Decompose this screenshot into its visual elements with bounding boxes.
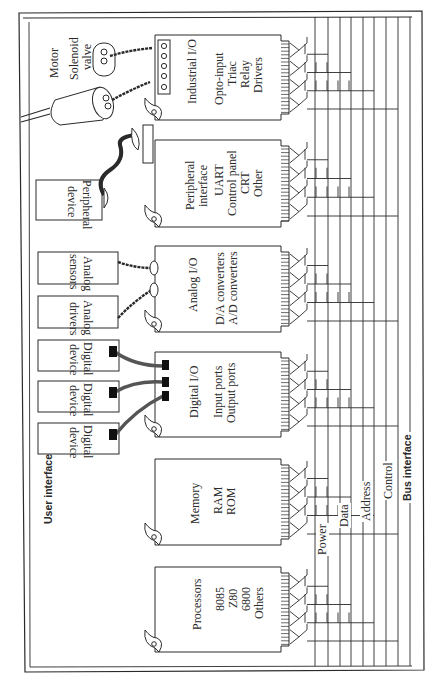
analog-sensors-label-1: Analog — [81, 256, 94, 291]
digital-device-2-label-1: Digital — [81, 383, 94, 416]
motor-icon — [21, 85, 117, 125]
card-processors-title: Processors — [191, 579, 204, 630]
bus-data-label: Data — [338, 503, 351, 528]
motor-cable — [112, 82, 150, 100]
card-industrial-io-line-4: Drivers — [252, 57, 265, 93]
digital-device-1-label-2: device — [67, 344, 80, 375]
digital-device-3-label-2: device — [67, 427, 80, 458]
card-memory-title: Memory — [189, 483, 202, 524]
card-peripheral-line-4: Other — [252, 170, 265, 197]
bus-system-diagram: Motor Solenoid valve Peripheral device A… — [0, 0, 443, 684]
digital-device-1-label-1: Digital — [81, 342, 94, 375]
bus-control-label: Control — [382, 461, 395, 500]
connector-fingers — [143, 125, 153, 163]
card-processors-line-4: Others — [253, 587, 266, 619]
analog-sensors-label-2: sensors — [67, 254, 80, 289]
bus-address-label: Address — [360, 481, 373, 522]
peripheral-cable — [101, 135, 135, 195]
analog-drivers-label-2: drivers — [67, 302, 80, 335]
card-memory-line-2: ROM — [225, 488, 238, 515]
card-digital-io-line-2: Output ports — [225, 363, 238, 423]
motor-label: Motor — [48, 48, 61, 78]
digital-device-3-label-1: Digital — [81, 425, 94, 458]
digital-device-2-label-2: device — [67, 385, 80, 416]
solenoid-valve-icon — [93, 43, 115, 76]
solenoid-label-2: valve — [81, 44, 94, 70]
peripheral-device-label-2: device — [65, 186, 78, 217]
user-interface-label: User interface — [42, 454, 55, 524]
peripheral-device-label-1: Peripheral — [80, 180, 93, 229]
analog-sensors-cable — [118, 262, 152, 268]
card-digital-io-title: Digital I/O — [188, 366, 201, 418]
card-outlines — [155, 35, 289, 652]
bus-lines — [315, 17, 410, 666]
card-peripheral-title-2: interface — [197, 165, 210, 207]
card-industrial-io-title: Industrial I/O — [186, 39, 199, 104]
analog-drivers-label-1: Analog — [81, 300, 94, 335]
solenoid-cable — [110, 48, 152, 56]
bus-power-label: Power — [316, 523, 329, 556]
card-analog-io-line-2: A/D converters — [227, 251, 240, 325]
bus-interface-label: Bus interface — [401, 432, 414, 503]
card-connectors — [290, 37, 398, 644]
card-analog-io-title: Analog I/O — [187, 258, 200, 312]
